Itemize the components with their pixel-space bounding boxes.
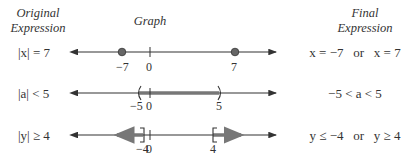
tick-label: 4 xyxy=(210,142,216,156)
tick-label: 0 xyxy=(146,142,152,156)
tick-label: 0 xyxy=(146,99,152,113)
tick-label: −7 xyxy=(116,60,129,74)
number-line-row-1: −7 0 7 xyxy=(78,47,276,74)
final-expression-2: −5 < a < 5 xyxy=(300,86,410,102)
final-expression-1: x = −7 or x = 7 xyxy=(300,45,410,61)
tick-label: 7 xyxy=(231,60,237,74)
number-line-row-3: −4 0 4 xyxy=(78,128,276,156)
point-neg7 xyxy=(118,48,126,56)
tick-label: 5 xyxy=(216,99,222,113)
number-line-row-2: −5 0 5 xyxy=(78,86,276,113)
point-pos7 xyxy=(231,48,239,56)
tick-label: −5 xyxy=(130,99,143,113)
final-expression-3: y ≤ −4 or y ≥ 4 xyxy=(300,128,410,144)
tick-label: 0 xyxy=(146,60,152,74)
